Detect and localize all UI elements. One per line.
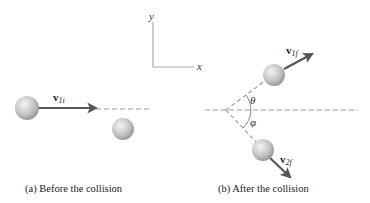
phi-label: φ bbox=[250, 116, 256, 128]
ball-1-after bbox=[263, 64, 285, 86]
coordinate-axes: y x bbox=[148, 10, 202, 72]
ball-2-after bbox=[252, 139, 274, 161]
velocity-1f-arrow bbox=[284, 54, 312, 69]
velocity-2f-label: v2f bbox=[280, 153, 294, 167]
x-axis-label: x bbox=[196, 60, 202, 72]
theta-label: θ bbox=[250, 94, 256, 106]
velocity-1i-label: v1i bbox=[53, 91, 65, 105]
y-axis-label: y bbox=[148, 10, 154, 22]
panel-before-collision: v1i (a) Before the collision bbox=[15, 91, 150, 195]
ball-2-before bbox=[112, 118, 134, 140]
caption-a: (a) Before the collision bbox=[25, 183, 123, 195]
panel-after-collision: θ φ v1f v2f (b) After the collision bbox=[205, 44, 358, 195]
collision-diagram: y x v1i (a) Before the collision θ φ v1f… bbox=[0, 0, 370, 203]
caption-b: (b) After the collision bbox=[218, 183, 309, 195]
velocity-1f-label: v1f bbox=[286, 44, 300, 58]
ball-1-before bbox=[15, 96, 39, 120]
